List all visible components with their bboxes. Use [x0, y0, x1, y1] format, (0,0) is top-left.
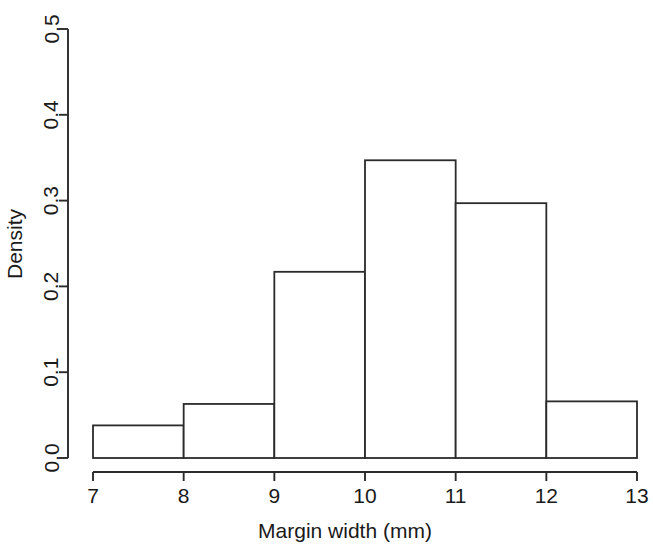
x-tick-label: 13	[625, 484, 648, 507]
histogram-plot-area: 0.00.10.20.30.40.5 78910111213 Density M…	[0, 0, 653, 545]
x-axis-title: Margin width (mm)	[258, 519, 432, 542]
histogram-bar	[546, 401, 637, 458]
histogram-bar	[93, 425, 184, 458]
x-tick-label: 9	[268, 484, 280, 507]
x-tick-label: 8	[178, 484, 190, 507]
y-axis-title: Density	[3, 208, 26, 279]
x-tick-label: 7	[87, 484, 99, 507]
y-tick-label: 0.1	[40, 358, 63, 387]
x-tick-label: 12	[535, 484, 558, 507]
histogram-bars	[93, 160, 637, 458]
x-tick-label: 11	[445, 484, 467, 507]
x-axis: 78910111213	[87, 472, 649, 507]
histogram-bar	[184, 404, 275, 458]
y-tick-label: 0.2	[40, 272, 63, 301]
y-tick-label: 0.0	[40, 443, 63, 472]
y-tick-label: 0.4	[40, 100, 63, 130]
y-tick-label: 0.3	[40, 186, 63, 215]
histogram-bar	[274, 272, 365, 458]
histogram-bar	[365, 160, 456, 458]
y-tick-label: 0.5	[40, 14, 63, 43]
histogram-bar	[456, 203, 547, 458]
y-axis: 0.00.10.20.30.40.5	[40, 14, 69, 472]
histogram-figure: 0.00.10.20.30.40.5 78910111213 Density M…	[0, 0, 653, 545]
x-tick-label: 10	[353, 484, 376, 507]
